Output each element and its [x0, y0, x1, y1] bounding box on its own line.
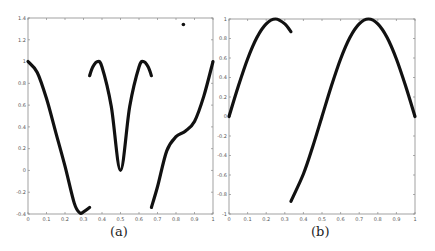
x-tick-label: 0 — [227, 216, 230, 222]
x-tick-label: 0.1 — [244, 216, 252, 222]
curve-segment-1 — [28, 62, 90, 214]
curve-segment-1 — [229, 19, 291, 117]
y-tick-label: -0.4 — [16, 211, 26, 217]
x-tick-label: 0.6 — [337, 216, 345, 222]
curve-segment-3 — [151, 62, 213, 208]
y-tick-label: 0 — [224, 113, 227, 119]
x-tick-label: 0.7 — [154, 216, 162, 222]
y-tick-label: 0.4 — [219, 74, 227, 80]
x-tick-label: 0.7 — [355, 216, 363, 222]
x-tick-label: 0.1 — [43, 216, 51, 222]
axes-frame — [28, 18, 213, 214]
y-tick-label: 1.2 — [18, 37, 26, 43]
y-tick-label: 0.2 — [18, 145, 26, 151]
figure: 00.10.20.30.40.50.60.70.80.91-0.4-0.200.… — [0, 0, 435, 251]
curve-segment-2 — [90, 61, 152, 170]
x-tick-label: 0.4 — [98, 216, 106, 222]
panel-a-plot: 00.10.20.30.40.50.60.70.80.91-0.4-0.200.… — [16, 15, 214, 222]
x-tick-label: 1 — [211, 216, 214, 222]
x-tick-label: 1 — [413, 216, 416, 222]
x-tick-label: 0.6 — [135, 216, 143, 222]
panel-a-caption: (a) — [110, 224, 128, 239]
y-tick-label: -1 — [222, 211, 227, 217]
marker-point — [182, 23, 186, 27]
x-tick-label: 0.4 — [299, 216, 307, 222]
y-tick-label: 1.4 — [18, 15, 26, 21]
y-tick-label: 0.8 — [219, 35, 227, 41]
x-tick-label: 0 — [26, 216, 29, 222]
x-tick-label: 0.2 — [262, 216, 270, 222]
y-tick-label: 0.6 — [18, 102, 26, 108]
y-tick-label: -0.6 — [217, 172, 227, 178]
x-tick-label: 0.9 — [392, 216, 400, 222]
x-tick-label: 0.5 — [117, 216, 125, 222]
x-tick-label: 0.3 — [281, 216, 289, 222]
y-tick-label: -0.8 — [217, 191, 227, 197]
y-tick-label: 1 — [23, 58, 26, 64]
y-tick-label: 0.4 — [18, 124, 26, 130]
panel-b-plot: 00.10.20.30.40.50.60.70.80.91-1-0.8-0.6-… — [217, 16, 416, 222]
x-tick-label: 0.8 — [172, 216, 180, 222]
x-tick-label: 0.3 — [80, 216, 88, 222]
x-tick-label: 0.9 — [191, 216, 199, 222]
x-tick-label: 0.2 — [61, 216, 69, 222]
y-tick-label: -0.2 — [217, 133, 227, 139]
y-tick-label: -0.2 — [16, 189, 26, 195]
curve-segment-2 — [291, 19, 415, 201]
y-tick-label: 0 — [23, 167, 26, 173]
y-tick-label: 0.6 — [219, 55, 227, 61]
x-tick-label: 0.5 — [318, 216, 326, 222]
y-tick-label: 0.8 — [18, 80, 26, 86]
y-tick-label: -0.4 — [217, 152, 227, 158]
y-tick-label: 1 — [224, 16, 227, 22]
y-tick-label: 0.2 — [219, 94, 227, 100]
x-tick-label: 0.8 — [374, 216, 382, 222]
panel-b-caption: (b) — [311, 224, 329, 239]
